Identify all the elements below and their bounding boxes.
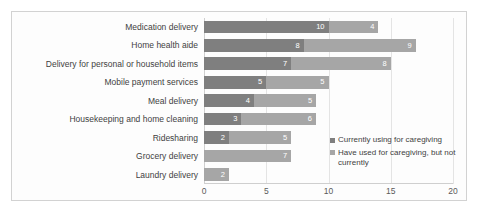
x-axis-tick-labels: 05101520: [204, 186, 453, 200]
bar-value-label: 3: [233, 115, 241, 123]
stacked-bar: 7: [204, 150, 291, 163]
bar-segment: 5: [254, 94, 316, 107]
bar-value-label: 7: [283, 60, 291, 68]
bar-row: Mobile payment services55: [204, 73, 453, 91]
bar-segment: 6: [241, 113, 316, 126]
bar-segment: 9: [304, 39, 416, 52]
legend-label: Have used for caregiving, but not curren…: [338, 148, 460, 169]
category-label: Laundry delivery: [136, 166, 198, 184]
bar-value-label: 5: [283, 134, 291, 142]
bar-value-label: 2: [221, 171, 229, 179]
bar-value-label: 2: [221, 134, 229, 142]
bar-segment: 5: [204, 76, 266, 89]
legend-square-marker-icon: [330, 150, 335, 155]
bar-segment: 3: [204, 113, 241, 126]
bar-row: Housekeeping and home cleaning36: [204, 110, 453, 128]
bar-segment: 5: [229, 131, 291, 144]
stacked-bar: 36: [204, 113, 316, 126]
stacked-bar: 2: [204, 168, 229, 181]
bar-value-label: 4: [246, 97, 254, 105]
bar-row: Home health aide89: [204, 36, 453, 54]
legend-square-marker-icon: [330, 138, 335, 143]
bar-segment: 8: [291, 57, 391, 70]
bar-segment: 7: [204, 57, 291, 70]
chart-frame: Medication delivery104Home health aide89…: [11, 11, 467, 201]
bar-segment: 2: [204, 168, 229, 181]
bar-segment: 5: [266, 76, 328, 89]
legend-label: Currently using for caregiving: [338, 135, 442, 146]
legend-item: Have used for caregiving, but not curren…: [330, 148, 460, 169]
category-label: Meal delivery: [148, 92, 198, 110]
stacked-bar: 78: [204, 57, 391, 70]
stacked-bar: 104: [204, 21, 378, 34]
category-label: Home health aide: [131, 36, 198, 54]
bar-value-label: 6: [308, 115, 316, 123]
bar-segment: 8: [204, 39, 304, 52]
category-label: Delivery for personal or household items: [46, 55, 198, 73]
stacked-bar: 89: [204, 39, 416, 52]
bar-value-label: 9: [407, 42, 415, 50]
bar-value-label: 4: [370, 23, 378, 31]
bar-value-label: 5: [320, 78, 328, 86]
legend-item: Currently using for caregiving: [330, 135, 460, 146]
category-label: Medication delivery: [125, 18, 198, 36]
x-tick-label: 5: [264, 186, 269, 196]
bar-segment: 2: [204, 131, 229, 144]
bar-value-label: 10: [316, 23, 328, 31]
bar-value-label: 8: [383, 60, 391, 68]
x-tick-label: 10: [324, 186, 333, 196]
bar-row: Medication delivery104: [204, 18, 453, 36]
chart-legend: Currently using for caregivingHave used …: [330, 135, 460, 171]
stacked-bar: 55: [204, 76, 329, 89]
category-label: Mobile payment services: [104, 73, 198, 91]
bar-segment: 4: [204, 94, 254, 107]
bar-row: Delivery for personal or household items…: [204, 55, 453, 73]
bar-value-label: 5: [308, 97, 316, 105]
stacked-bar: 25: [204, 131, 291, 144]
bar-value-label: 7: [283, 152, 291, 160]
bar-value-label: 8: [295, 42, 303, 50]
x-tick-label: 15: [386, 186, 395, 196]
x-tick-label: 0: [202, 186, 207, 196]
category-label: Housekeeping and home cleaning: [69, 110, 198, 128]
stacked-bar: 45: [204, 94, 316, 107]
bar-row: Meal delivery45: [204, 92, 453, 110]
bar-value-label: 5: [258, 78, 266, 86]
category-label: Ridesharing: [153, 129, 198, 147]
category-label: Grocery delivery: [136, 147, 198, 165]
x-tick-label: 20: [448, 186, 457, 196]
bar-segment: 10: [204, 21, 329, 34]
bar-segment: 4: [329, 21, 379, 34]
bar-segment: 7: [204, 150, 291, 163]
